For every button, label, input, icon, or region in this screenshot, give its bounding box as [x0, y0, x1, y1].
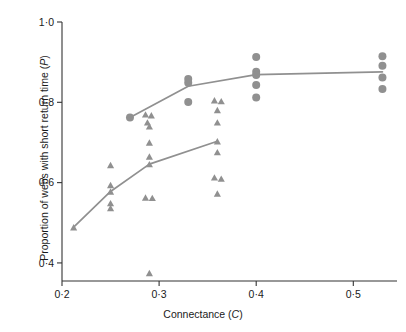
data-point-triangle	[214, 149, 221, 155]
x-axis-title-tail: )	[239, 308, 243, 320]
data-point-triangle	[146, 139, 153, 145]
scatter-plot: 0·40·60·81·00·20·30·40·5	[0, 0, 406, 332]
data-point-circle	[252, 81, 260, 89]
trend-line-triangles	[74, 141, 218, 227]
data-point-circle	[378, 85, 386, 93]
y-axis-title: Proportion of webs with short return tim…	[38, 28, 50, 288]
data-point-triangle	[214, 119, 221, 125]
data-point-triangle	[214, 190, 221, 196]
x-axis-tick-label: 0·4	[249, 288, 264, 300]
data-point-circle	[378, 52, 386, 60]
data-point-triangle	[149, 195, 156, 201]
y-axis-tick-label: 1·0	[39, 16, 54, 28]
chart-figure: 0·40·60·81·00·20·30·40·5 Proportion of w…	[0, 0, 406, 332]
y-axis-title-text: Proportion of webs with short return tim…	[38, 66, 50, 261]
data-point-triangle	[214, 107, 221, 113]
data-point-circle	[378, 73, 386, 81]
x-axis-title-text: Connectance (	[163, 308, 231, 320]
data-point-triangle	[146, 153, 153, 159]
x-axis-title: Connectance (C)	[0, 308, 406, 320]
data-point-triangle	[146, 270, 153, 276]
x-axis-tick-label: 0·3	[152, 288, 167, 300]
data-point-circle	[252, 53, 260, 61]
data-point-triangle	[218, 98, 225, 104]
x-axis-tick-label: 0·5	[346, 288, 361, 300]
data-point-circle	[378, 62, 386, 70]
data-point-triangle	[142, 111, 149, 117]
data-point-circle	[184, 98, 192, 106]
data-point-triangle	[107, 182, 114, 188]
x-axis-tick-label: 0·2	[54, 288, 69, 300]
data-point-triangle	[107, 162, 114, 168]
data-point-circle	[126, 114, 134, 122]
data-point-triangle	[142, 194, 149, 200]
data-point-circle	[252, 71, 260, 79]
data-point-triangle	[148, 112, 155, 118]
data-point-triangle	[211, 97, 218, 103]
data-point-triangle	[218, 175, 225, 181]
data-point-circle	[184, 79, 192, 87]
y-axis-title-tail: )	[38, 55, 50, 59]
data-point-triangle	[211, 174, 218, 180]
data-point-circle	[252, 93, 260, 101]
y-axis-title-variable: P	[38, 59, 50, 66]
